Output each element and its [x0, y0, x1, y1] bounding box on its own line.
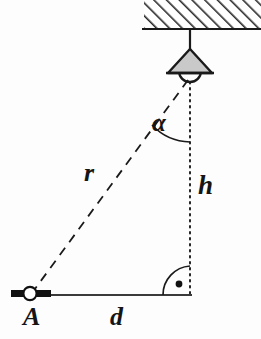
hatched-ceiling	[142, 0, 261, 29]
point-A-marker	[11, 287, 51, 300]
label-d: d	[110, 304, 123, 330]
label-h: h	[198, 172, 213, 199]
physics-diagram-figure: α r h A d	[0, 0, 261, 339]
diagram-canvas	[0, 0, 261, 339]
lamp-shade-triangle	[166, 49, 214, 73]
label-alpha: α	[152, 110, 166, 135]
label-point-a: A	[23, 304, 40, 330]
right-angle-marker	[163, 266, 190, 295]
label-r: r	[84, 160, 94, 186]
